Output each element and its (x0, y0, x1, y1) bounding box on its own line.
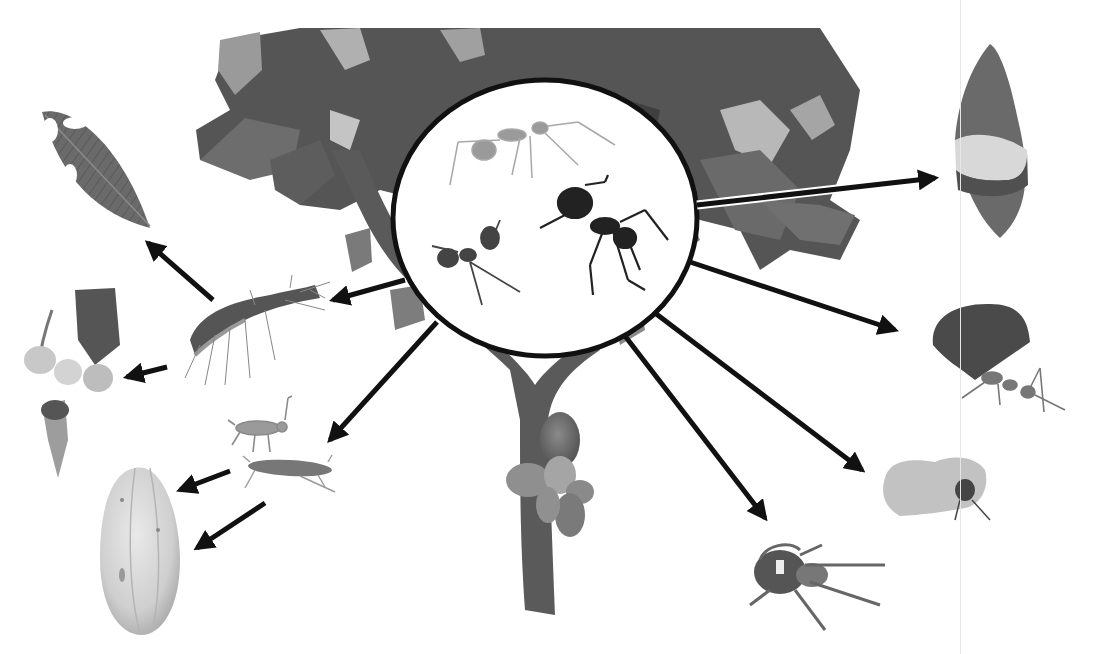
damaged-leaf (42, 111, 150, 228)
cacao-pod-large (100, 468, 180, 635)
mirid-bug-adult (243, 455, 335, 492)
pod-with-lesion (955, 44, 1028, 238)
jumping-spider (750, 545, 885, 630)
small-pod (345, 228, 372, 272)
arrow-ants-inset-to-leafcutter-ant (690, 262, 895, 330)
arrow-ants-inset-to-mirid-bugs (330, 322, 437, 440)
panel-divider (960, 0, 961, 654)
arrow-caterpillar-to-flowers (127, 367, 167, 377)
mirid-bug-nymph (228, 396, 292, 452)
arrow-mirid-bugs-to-pod-healthy-large (180, 471, 230, 490)
arrow-ants-inset-to-spider (625, 336, 765, 518)
arrow-mirid-bugs-to-pod-healthy-large (197, 503, 265, 548)
trunk-pod-cluster (506, 412, 594, 537)
pod-with-insect (883, 457, 990, 520)
arrow-caterpillar-to-leaf-damaged (148, 243, 213, 300)
arrow-ants-inset-to-mealybug-pod (655, 313, 862, 470)
flower-cluster (24, 288, 120, 478)
ants-inset (393, 80, 697, 356)
diagram-canvas (0, 0, 1094, 654)
leafcutter-ant (933, 304, 1065, 412)
